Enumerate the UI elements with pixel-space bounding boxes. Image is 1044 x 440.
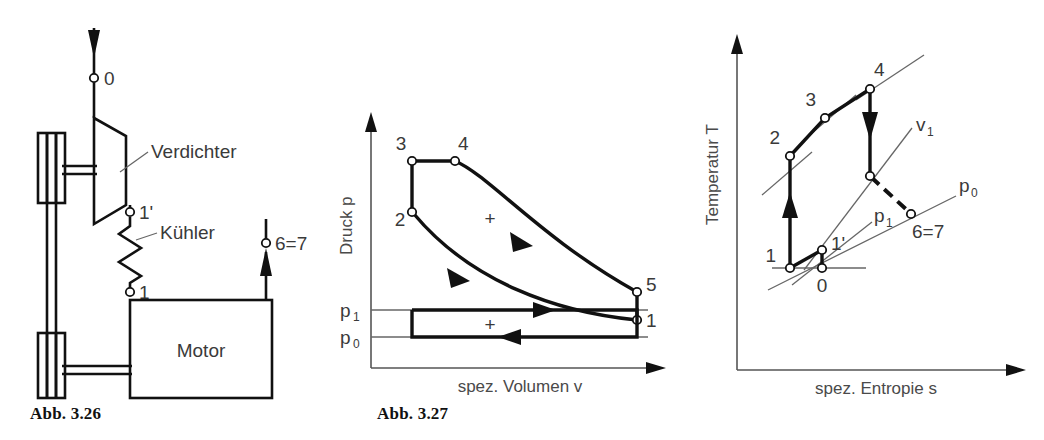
ytick-p0: p 0 (340, 327, 360, 351)
leader-verdichter (120, 152, 148, 172)
iso-label-p1: p (874, 205, 885, 226)
ytick-p1-sub: 1 (353, 310, 360, 324)
pv-node-2 (408, 208, 416, 216)
node-1 (126, 288, 134, 296)
label-verdichter: Verdichter (151, 141, 237, 162)
ts-process-lines (782, 89, 909, 268)
caption-abb-3-26: Abb. 3.26 (30, 404, 101, 424)
pv-work-sign-upper: + (484, 208, 495, 229)
iso-label-v-sub: 1 (927, 125, 934, 139)
ts-node-2 (786, 152, 794, 160)
isobar-p0 (768, 196, 956, 290)
y-axis-arrow-icon (365, 112, 377, 132)
shaft-assembly (38, 133, 132, 398)
x-axis-arrow-icon (646, 362, 666, 374)
ts-label-2: 2 (769, 127, 780, 148)
ts-y-axis-label: Temperatur T (703, 124, 722, 225)
label-kuehler: Kühler (160, 222, 216, 243)
iso-label-p0-sub: 0 (971, 186, 978, 200)
pv-label-4: 4 (458, 133, 469, 154)
label-point-6-7: 6=7 (275, 233, 307, 254)
exhaust-arrow-icon (260, 248, 272, 276)
caption-abb-3-27: Abb. 3.27 (377, 404, 448, 424)
ytick-p0-text: p (340, 327, 351, 348)
pv-work-sign-lower: + (484, 314, 495, 335)
inlet-arrow-icon (88, 30, 100, 58)
pv-node-5 (633, 288, 641, 296)
ts-node-1 (786, 264, 794, 272)
ts-iso-label-v1: v 1 (916, 114, 934, 139)
node-6-7 (262, 239, 270, 247)
pv-label-3: 3 (396, 133, 407, 154)
ytick-p1-text: p (340, 300, 351, 321)
leader-kuehler (136, 233, 157, 240)
cooler-zigzag (119, 217, 141, 288)
pv-label-1: 1 (646, 310, 657, 331)
arrow-lower-back (498, 329, 521, 345)
pv-node-3 (408, 157, 416, 165)
exhaust-pipe (260, 219, 272, 300)
ts-label-4: 4 (874, 59, 885, 80)
ts-label-1: 1 (765, 245, 776, 266)
pv-label-2: 2 (395, 209, 406, 230)
figure-abb-3-26: 0 Verdichter 1' Kühler 1 Motor 6=7 (0, 0, 330, 400)
ts-label-6-7: 6=7 (912, 221, 944, 242)
pv-node-4 (451, 157, 459, 165)
ts-y-axis-arrow-icon (731, 34, 743, 54)
ts-node-6-7 (907, 210, 915, 218)
pv-label-5: 5 (646, 274, 657, 295)
iso-label-p1-sub: 1 (886, 216, 893, 230)
ytick-p0-sub: 0 (353, 337, 360, 351)
ts-label-1-prime: 1' (831, 233, 845, 254)
arrow-1-to-2 (447, 268, 470, 288)
pv-y-axis-label: Druck p (337, 196, 356, 255)
label-point-1-prime: 1' (139, 202, 153, 223)
ts-x-axis-arrow-icon (1006, 364, 1026, 376)
arrow-4-expansion (862, 112, 878, 140)
ts-iso-label-p0: p 0 (959, 175, 978, 200)
ts-label-0: 0 (817, 275, 828, 296)
ts-node-1-prime (818, 246, 826, 254)
arrow-1-to-2-ts (782, 192, 798, 218)
label-point-0: 0 (104, 68, 115, 89)
ts-node-0 (818, 264, 826, 272)
ts-node-4 (866, 85, 874, 93)
ts-x-axis-label: spez. Entropie s (815, 379, 937, 398)
ts-node-3 (821, 114, 829, 122)
iso-label-p0: p (959, 175, 970, 196)
iso-label-v: v (916, 114, 926, 135)
pv-cycle-upper (412, 161, 637, 320)
ts-label-3: 3 (805, 89, 816, 110)
figure-ts-diagram: Temperatur T spez. Entropie s (694, 0, 1044, 400)
pv-x-axis-label: spez. Volumen v (458, 377, 583, 396)
arrow-4-to-5 (510, 232, 533, 252)
node-1-prime (126, 208, 134, 216)
node-0 (90, 74, 98, 82)
label-motor: Motor (177, 340, 226, 361)
ytick-p1: p 1 (340, 300, 360, 324)
ts-node-expansion-end (866, 172, 874, 180)
figure-abb-3-27: Druck p spez. Volumen v p 1 p 0 3 4 2 5 … (330, 0, 690, 400)
ts-iso-label-p1: p 1 (874, 205, 893, 230)
